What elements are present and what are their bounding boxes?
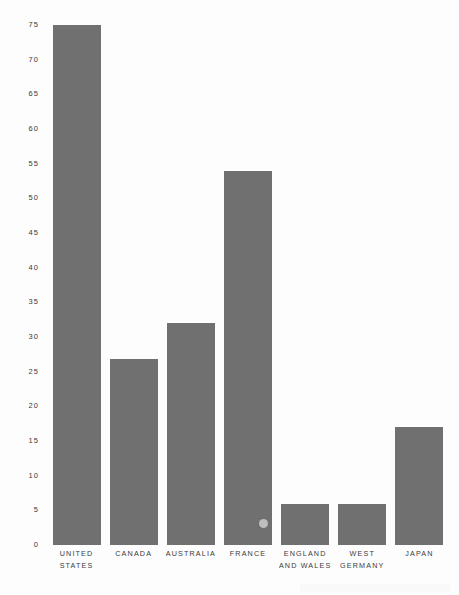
y-axis: 051015202530354045505560657075 — [0, 0, 48, 595]
y-axis-tick-label: 35 — [5, 299, 39, 307]
y-axis-tick-label: 70 — [5, 56, 39, 64]
bar-slot — [110, 25, 158, 545]
scan-artifact-speck — [259, 519, 268, 528]
bar-slot — [281, 25, 329, 545]
y-axis-tick-label: 20 — [5, 403, 39, 411]
y-axis-tick-label: 65 — [5, 91, 39, 99]
scan-artifact-noise — [300, 584, 450, 592]
bar — [281, 504, 329, 545]
bar-slot — [224, 25, 272, 545]
y-axis-tick-label: 40 — [5, 264, 39, 272]
bar — [395, 427, 443, 545]
bar — [110, 359, 158, 545]
y-axis-tick-label: 45 — [5, 229, 39, 237]
y-axis-tick-label: 60 — [5, 125, 39, 133]
y-axis-tick-label: 10 — [5, 472, 39, 480]
y-axis-tick-label: 0 — [5, 541, 39, 549]
x-axis: UNITED STATESCANADAAUSTRALIAFRANCEENGLAN… — [48, 548, 448, 588]
bar-slot — [395, 25, 443, 545]
bar — [167, 323, 215, 545]
bar-slot — [338, 25, 386, 545]
y-axis-tick-label: 30 — [5, 333, 39, 341]
bar-chart-figure: 051015202530354045505560657075 UNITED ST… — [0, 0, 459, 595]
y-axis-tick-label: 25 — [5, 368, 39, 376]
bar — [338, 504, 386, 545]
y-axis-tick-label: 75 — [5, 21, 39, 29]
bar — [53, 25, 101, 545]
x-axis-category-label: JAPAN — [385, 548, 454, 560]
y-axis-tick-label: 55 — [5, 160, 39, 168]
bar-slot — [53, 25, 101, 545]
y-axis-tick-label: 5 — [5, 507, 39, 515]
bar — [224, 171, 272, 545]
plot-area — [48, 25, 448, 545]
y-axis-tick-label: 50 — [5, 195, 39, 203]
y-axis-tick-label: 15 — [5, 437, 39, 445]
bar-slot — [167, 25, 215, 545]
